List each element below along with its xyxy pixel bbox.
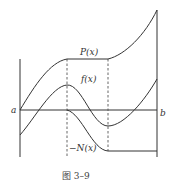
label-p: P(x) [79, 47, 99, 57]
variation-diagram: a b P(x) f(x) −N(x) 图 3–9 [0, 0, 170, 187]
label-neg-n: −N(x) [69, 143, 97, 153]
curve-f [20, 79, 157, 135]
figure-caption: 图 3–9 [62, 171, 90, 181]
label-f: f(x) [80, 74, 97, 84]
curve-p [20, 10, 157, 110]
label-b: b [160, 108, 166, 118]
label-a: a [11, 105, 16, 115]
